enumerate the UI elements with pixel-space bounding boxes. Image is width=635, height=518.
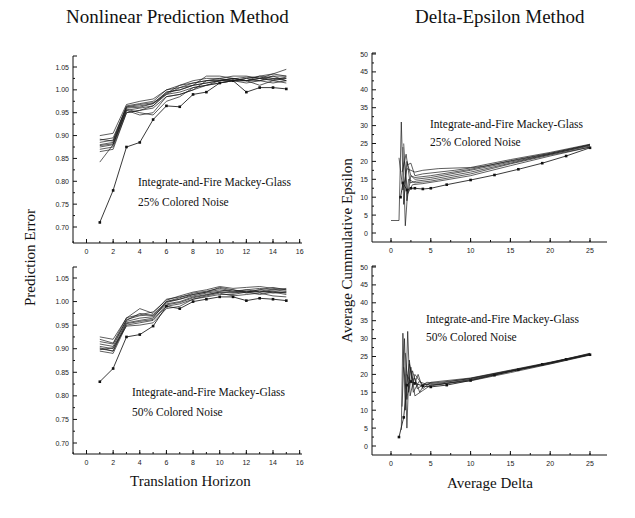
data-marker [589,146,592,149]
y-tick-label: 25 [360,353,368,360]
y-tick-label: 20 [360,158,368,165]
x-tick-label: 4 [138,459,142,466]
y-tick-label: 35 [360,104,368,111]
chart-canvas: 0.700.750.800.850.900.951.001.0502468101… [0,0,635,518]
series-line [100,81,286,152]
x-tick-label: 15 [507,460,515,467]
x-tick-label: 4 [138,248,142,255]
data-marker [285,88,288,91]
data-marker [205,298,208,301]
y-tick-label: 0.90 [55,345,69,352]
y-tick-label: 45 [360,281,368,288]
series-line [401,148,590,197]
y-tick-label: 10 [360,407,368,414]
x-tick-label: 0 [389,460,393,467]
y-tick-label: 10 [360,194,368,201]
data-marker [272,298,275,301]
x-tick-label: 16 [296,248,304,255]
plot-annotation: Integrate-and-Fire Mackey-Glass [138,176,291,189]
x-tick-label: 14 [269,248,277,255]
x-tick-label: 12 [242,248,250,255]
x-tick-label: 2 [111,248,115,255]
data-marker [152,325,155,328]
data-marker [138,141,141,144]
y-tick-label: 40 [360,86,368,93]
y-tick-label: 40 [360,299,368,306]
x-tick-label: 0 [389,247,393,254]
x-tick-label: 6 [164,459,168,466]
x-tick-label: 14 [269,459,277,466]
x-tick-label: 12 [242,459,250,466]
series-line [399,355,590,437]
data-marker [138,333,141,336]
data-marker [402,416,405,419]
x-tick-label: 2 [111,459,115,466]
data-marker [565,155,568,158]
data-marker [152,118,155,121]
y-tick-label: 0.95 [55,109,69,116]
series-line [100,297,286,382]
y-tick-label: 0 [364,230,368,237]
y-tick-label: 50 [360,51,368,58]
plot-annotation: 50% Colored Noise [426,331,517,343]
y-tick-label: 5 [364,425,368,432]
x-tick-label: 10 [467,460,475,467]
y-tick-label: 30 [360,122,368,129]
plot-annotation: Integrate-and-Fire Mackey-Glass [132,386,285,399]
plot-annotation: 25% Colored Noise [430,136,521,148]
data-marker [178,307,181,310]
series-line [404,355,590,399]
data-marker [469,179,472,182]
data-marker [125,336,128,339]
plot-de-25: 051015202530354045500510152025Integrate-… [360,51,607,255]
plot-annotation: 50% Colored Noise [132,406,223,418]
data-marker [517,168,520,171]
x-tick-label: 16 [296,459,304,466]
data-marker [398,436,401,439]
x-tick-label: 0 [85,459,89,466]
series-line [100,78,286,149]
y-tick-label: 0.80 [55,392,69,399]
x-tick-label: 20 [546,460,554,467]
data-marker [99,380,102,383]
y-tick-label: 15 [360,176,368,183]
x-tick-label: 0 [85,248,89,255]
data-marker [445,183,448,186]
data-marker [541,162,544,165]
y-tick-label: 35 [360,317,368,324]
y-tick-label: 1.05 [55,275,69,282]
data-marker [258,297,261,300]
x-tick-label: 6 [164,248,168,255]
y-tick-label: 0.90 [55,132,69,139]
plot-de-50: 051015202530354045500510152025Integrate-… [360,264,607,468]
x-tick-label: 10 [216,248,224,255]
series-line [401,331,590,430]
series-line [407,145,590,176]
y-tick-label: 0.85 [55,155,69,162]
plot-np-25: 0.700.750.800.850.900.951.001.0502468101… [55,56,303,255]
y-tick-label: 0.80 [55,178,69,185]
data-marker [192,93,195,96]
x-tick-label: 5 [429,247,433,254]
y-tick-label: 0.70 [55,440,69,447]
x-tick-label: 8 [191,248,195,255]
data-marker [178,105,181,108]
data-marker [99,221,102,224]
y-tick-label: 15 [360,389,368,396]
x-tick-label: 20 [546,247,554,254]
y-tick-label: 0.95 [55,322,69,329]
y-tick-label: 0.75 [55,201,69,208]
data-marker [258,86,261,89]
y-tick-label: 0.85 [55,369,69,376]
data-marker [493,174,496,177]
x-tick-label: 25 [586,460,594,467]
y-tick-label: 1.00 [55,86,69,93]
x-tick-label: 10 [216,459,224,466]
y-tick-label: 0.75 [55,416,69,423]
y-tick-label: 30 [360,335,368,342]
x-tick-label: 10 [467,247,475,254]
data-marker [414,187,417,190]
y-tick-label: 45 [360,68,368,75]
y-tick-label: 20 [360,371,368,378]
series-line [100,287,286,344]
